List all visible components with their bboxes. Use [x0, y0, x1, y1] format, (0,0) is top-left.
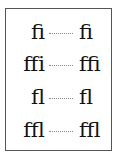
ligature-glyph: ﬄ [79, 117, 101, 143]
separate-letters: fl [31, 84, 45, 110]
ligature-row-fi: fi ﬁ [0, 19, 121, 45]
separate-letters: ffi [23, 51, 45, 77]
separate-letters: ffl [23, 117, 45, 143]
ligature-glyph: ﬃ [79, 51, 101, 77]
ligature-row-ffi: ffi ﬃ [0, 51, 121, 77]
ligature-glyph: ﬁ [79, 19, 93, 45]
dotted-connector [49, 65, 73, 66]
separate-letters: fi [31, 19, 45, 45]
ligature-row-ffl: ffl ﬄ [0, 117, 121, 143]
dotted-connector [49, 33, 73, 34]
dotted-connector [49, 98, 73, 99]
dotted-connector [49, 131, 73, 132]
ligature-glyph: ﬂ [79, 84, 93, 110]
ligature-row-fl: fl ﬂ [0, 84, 121, 110]
